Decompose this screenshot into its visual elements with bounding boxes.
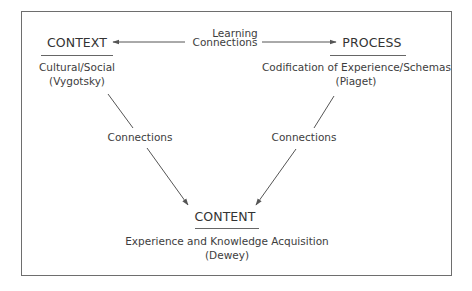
context-description: Cultural/Social — [27, 62, 127, 73]
content-description: Experience and Knowledge Acquisition — [122, 236, 332, 247]
arrow-process-to-content — [256, 149, 296, 205]
process-underline — [330, 55, 406, 56]
content-title: CONTENT — [190, 211, 260, 224]
process-theorist: (Piaget) — [306, 76, 406, 87]
learning-label-line2: Connections — [180, 37, 270, 48]
process-connector-upper — [314, 96, 334, 128]
context-title: CONTEXT — [42, 37, 112, 50]
content-theorist: (Dewey) — [177, 250, 277, 261]
connections-label-left: Connections — [100, 132, 180, 143]
context-theorist: (Vygotsky) — [27, 76, 127, 87]
arrow-context-to-content — [147, 148, 188, 205]
context-connector-upper — [108, 94, 133, 128]
connections-label-right: Connections — [264, 132, 344, 143]
process-title: PROCESS — [337, 37, 407, 50]
content-underline — [195, 228, 259, 229]
process-description: Codification of Experience/Schemas — [262, 62, 450, 73]
context-underline — [41, 55, 113, 56]
